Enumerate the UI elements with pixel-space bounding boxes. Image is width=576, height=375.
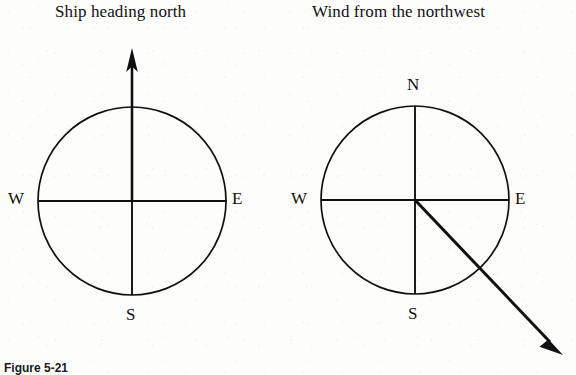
compass-diagram-svg (0, 0, 576, 375)
compass-label-south-right: S (408, 305, 417, 322)
compass-label-south-left: S (126, 306, 135, 323)
ship-heading-vector (126, 48, 138, 201)
figure-caption: Figure 5-21 (4, 362, 68, 375)
compass-rose-wind-direction (321, 106, 563, 355)
wind-direction-vector (415, 200, 563, 355)
figure-container: Ship heading north Wind from the northwe… (0, 0, 576, 375)
compass-label-north-right: N (407, 76, 419, 93)
compass-label-west-left: W (8, 190, 24, 207)
compass-label-west-right: W (291, 190, 307, 207)
compass-label-east-left: E (232, 190, 242, 207)
compass-label-east-right: E (515, 190, 525, 207)
compass-rose-ship-heading (38, 48, 227, 295)
wind-direction-vector-shaft (415, 200, 550, 342)
